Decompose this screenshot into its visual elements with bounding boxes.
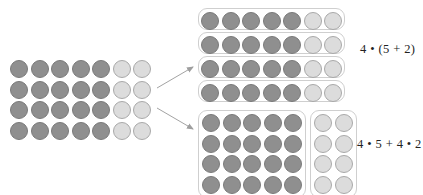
light-dot — [113, 60, 131, 78]
dark-dot — [201, 36, 219, 54]
dark-dot — [283, 84, 301, 102]
dark-dot — [201, 84, 219, 102]
light-dot — [324, 60, 342, 78]
dark-dot — [222, 84, 240, 102]
dark-dot — [283, 12, 301, 30]
light-dot — [314, 155, 332, 173]
dark-dot — [202, 114, 220, 132]
dark-dot — [202, 135, 220, 153]
dark-dot — [72, 101, 90, 119]
light-dot — [304, 36, 322, 54]
dark-dot — [31, 81, 49, 99]
light-dot — [314, 176, 332, 194]
dark-dot — [72, 60, 90, 78]
light-dot — [133, 81, 151, 99]
dark-dot — [263, 84, 281, 102]
dark-dot — [202, 176, 220, 194]
dark-dot — [263, 12, 281, 30]
dark-dot — [92, 101, 110, 119]
dark-dot — [51, 101, 69, 119]
arrow-to-bottom-grouping — [157, 108, 193, 129]
dark-dot — [10, 101, 28, 119]
dark-dot — [242, 12, 260, 30]
dark-dot — [264, 155, 282, 173]
light-dot — [335, 135, 353, 153]
dark-dot — [263, 36, 281, 54]
dark-dot — [92, 60, 110, 78]
dark-dot — [72, 122, 90, 140]
dark-dot — [243, 135, 261, 153]
dark-dot — [223, 114, 241, 132]
figure-canvas: 4 • (5 + 2) 4 • 5 + 4 • 2 — [0, 0, 423, 195]
dark-dot — [284, 114, 302, 132]
dark-dot — [51, 81, 69, 99]
light-dot — [335, 176, 353, 194]
dark-dot — [201, 60, 219, 78]
dark-dot — [284, 155, 302, 173]
dark-dot — [264, 176, 282, 194]
dark-dot — [264, 114, 282, 132]
light-dot — [304, 12, 322, 30]
light-dot — [113, 101, 131, 119]
dark-dot — [92, 122, 110, 140]
dark-dot — [243, 176, 261, 194]
dark-dot — [264, 135, 282, 153]
dark-dot — [31, 122, 49, 140]
dark-dot — [10, 81, 28, 99]
light-dot — [324, 36, 342, 54]
dark-dot — [243, 114, 261, 132]
dark-dot — [284, 135, 302, 153]
dark-dot — [223, 176, 241, 194]
arrow-to-top-grouping — [157, 67, 193, 88]
light-dot — [113, 122, 131, 140]
dark-dot — [51, 122, 69, 140]
light-dot — [133, 122, 151, 140]
light-dot — [304, 60, 322, 78]
light-dot — [324, 12, 342, 30]
light-dot — [335, 114, 353, 132]
dark-dot — [242, 84, 260, 102]
dark-dot — [223, 135, 241, 153]
light-dot — [314, 135, 332, 153]
light-dot — [335, 155, 353, 173]
light-dot — [133, 60, 151, 78]
dark-dot — [222, 12, 240, 30]
dark-dot — [242, 36, 260, 54]
dark-dot — [242, 60, 260, 78]
dark-dot — [201, 12, 219, 30]
light-dot — [304, 84, 322, 102]
dark-dot — [222, 60, 240, 78]
equation-bottom: 4 • 5 + 4 • 2 — [357, 137, 422, 152]
dark-dot — [31, 60, 49, 78]
light-dot — [314, 114, 332, 132]
dark-dot — [283, 36, 301, 54]
dark-dot — [31, 101, 49, 119]
equation-top: 4 • (5 + 2) — [360, 42, 415, 57]
light-dot — [113, 81, 131, 99]
dark-dot — [72, 81, 90, 99]
dark-dot — [243, 155, 261, 173]
dark-dot — [202, 155, 220, 173]
dark-dot — [222, 36, 240, 54]
dark-dot — [10, 122, 28, 140]
dark-dot — [51, 60, 69, 78]
dark-dot — [223, 155, 241, 173]
dark-dot — [10, 60, 28, 78]
dark-dot — [283, 60, 301, 78]
dark-dot — [263, 60, 281, 78]
dark-dot — [284, 176, 302, 194]
light-dot — [324, 84, 342, 102]
dark-dot — [92, 81, 110, 99]
light-dot — [133, 101, 151, 119]
